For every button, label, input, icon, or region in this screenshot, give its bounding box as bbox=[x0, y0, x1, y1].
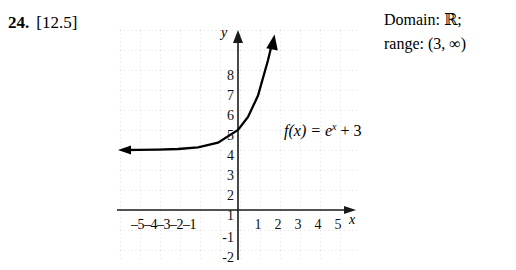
x-axis-label: x bbox=[349, 212, 355, 228]
y-tick-neg1: -1 bbox=[218, 231, 234, 245]
graph-figure: 8 7 6 5 4 3 2 1 -1 -2 –5–4–3–2–1 1 2 3 4… bbox=[117, 28, 357, 260]
y-tick-1: 1 bbox=[218, 209, 234, 223]
function-curve bbox=[118, 35, 278, 155]
function-equation-label: f(x) = ex + 3 bbox=[284, 121, 362, 140]
answer-range-line: range: (3, ∞) bbox=[384, 32, 466, 56]
y-tick-3: 3 bbox=[218, 169, 234, 183]
x-tick-5: 5 bbox=[331, 218, 345, 232]
y-tick-7: 7 bbox=[218, 89, 234, 103]
problem-number: 24. bbox=[8, 13, 29, 32]
y-axis-label: y bbox=[221, 25, 227, 41]
y-tick-6: 6 bbox=[218, 109, 234, 123]
y-tick-4: 4 bbox=[218, 149, 234, 163]
y-tick-8: 8 bbox=[218, 69, 234, 83]
y-tick-2: 2 bbox=[218, 189, 234, 203]
y-tick-neg2: -2 bbox=[218, 251, 234, 265]
function-equation-suffix: + 3 bbox=[337, 122, 362, 139]
answer-domain-line: Domain: ℝ; bbox=[384, 8, 466, 32]
y-tick-5: 5 bbox=[218, 129, 234, 143]
problem-label: 24.[12.5] bbox=[8, 12, 77, 33]
y-axis bbox=[233, 30, 243, 260]
problem-reference: [12.5] bbox=[36, 13, 77, 32]
answer-block: Domain: ℝ; range: (3, ∞) bbox=[384, 8, 466, 56]
x-tick-1: 1 bbox=[251, 218, 265, 232]
x-tick-3: 3 bbox=[291, 218, 305, 232]
x-tick-2: 2 bbox=[271, 218, 285, 232]
x-ticks-negative: –5–4–3–2–1 bbox=[131, 218, 196, 232]
x-tick-4: 4 bbox=[311, 218, 325, 232]
x-axis bbox=[117, 206, 356, 214]
function-equation-prefix: f(x) = e bbox=[284, 122, 332, 139]
